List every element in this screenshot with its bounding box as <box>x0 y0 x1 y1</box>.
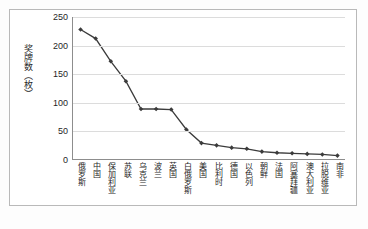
data-point-marker <box>244 146 249 151</box>
plot-area <box>72 17 345 160</box>
y-axis-tick-label: 200 <box>34 41 68 51</box>
x-axis-tick-label: 法国 <box>271 162 283 178</box>
x-axis-tick-label: 澳大利亚 <box>301 162 313 194</box>
x-axis-tick-label: 美国 <box>195 162 207 178</box>
data-point-marker <box>275 150 280 155</box>
y-axis-tick-label: 150 <box>34 69 68 79</box>
series-markers <box>78 27 339 158</box>
y-axis-tick-label: 50 <box>34 126 68 136</box>
x-axis-tick-label: 中国 <box>89 162 101 178</box>
figure-caption <box>0 219 368 229</box>
x-axis-tick-label: 朝鲜 <box>256 162 268 178</box>
gridline <box>73 74 345 75</box>
x-axis-tick-label: 白俄罗斯 <box>180 162 192 194</box>
data-point-marker <box>229 145 234 150</box>
data-point-marker <box>260 149 265 154</box>
data-point-marker <box>139 107 144 112</box>
x-axis-tick-label: 苏联 <box>119 162 131 178</box>
x-axis-tick-label: 保加利亚 <box>104 162 116 194</box>
x-axis-tick-label: 乌克兰 <box>134 162 146 186</box>
gridline <box>73 131 345 132</box>
data-point-marker <box>335 153 340 158</box>
data-point-marker <box>305 152 310 157</box>
series-line <box>81 29 338 155</box>
x-axis-tick-label: 南非 <box>331 162 343 178</box>
gridline <box>73 46 345 47</box>
x-axis-tick-label: 德国 <box>225 162 237 178</box>
gridline <box>73 103 345 104</box>
figure-container: 奖牌数（枚） 050100150200250 俄罗斯中国保加利亚苏联乌克兰波兰英… <box>0 0 368 229</box>
data-point-marker <box>154 107 159 112</box>
data-point-marker <box>320 152 325 157</box>
medal-count-line-series <box>73 17 345 159</box>
x-axis-tick-label: 英国 <box>165 162 177 178</box>
x-axis-tick-label: 阿塞拜疆 <box>286 162 298 194</box>
data-point-marker <box>214 143 219 148</box>
x-axis-tick-label: 俄罗斯 <box>74 162 86 186</box>
x-axis-tick-labels: 俄罗斯中国保加利亚苏联乌克兰波兰英国白俄罗斯美国比利时德国以色列朝鲜法国阿塞拜疆… <box>72 162 345 206</box>
x-axis-tick-label: 比利时 <box>210 162 222 186</box>
y-axis-tick-label: 0 <box>34 155 68 165</box>
y-axis-tick-label: 250 <box>34 12 68 22</box>
y-axis-title: 奖牌数（枚） <box>19 44 33 98</box>
gridline <box>73 17 345 18</box>
x-axis-tick-label: 以色列 <box>240 162 252 186</box>
x-axis-tick-label: 波兰 <box>149 162 161 178</box>
x-axis-tick-label: 拉脱维亚 <box>316 162 328 194</box>
data-point-marker <box>290 151 295 156</box>
y-axis-tick-labels: 050100150200250 <box>34 0 68 229</box>
y-axis-tick-label: 100 <box>34 98 68 108</box>
